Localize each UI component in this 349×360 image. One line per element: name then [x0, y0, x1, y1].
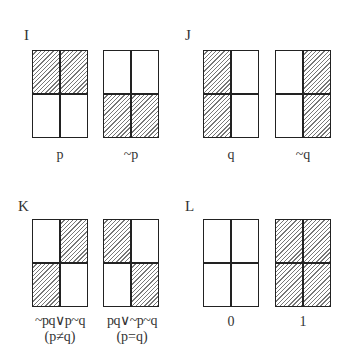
group-label-l: L	[185, 199, 194, 214]
cell-bottom-right	[60, 263, 87, 306]
diagram-not-p	[103, 50, 159, 138]
cell-top-right	[131, 220, 158, 263]
caption-not-p: ~p	[103, 147, 159, 162]
caption-q: q	[203, 147, 259, 162]
caption-xor: ~pq∨p~q	[20, 313, 100, 328]
caption-not-q: ~q	[275, 147, 331, 162]
diagram-p	[32, 50, 88, 138]
cell-top-right	[231, 220, 258, 263]
cell-top-right	[60, 220, 87, 263]
cell-top-left	[276, 51, 303, 94]
diagram-q	[203, 50, 259, 138]
cell-bottom-left	[276, 263, 303, 306]
cell-bottom-left	[204, 94, 231, 137]
cell-top-left	[204, 51, 231, 94]
cell-bottom-right	[131, 94, 158, 137]
diagram-one	[275, 219, 331, 307]
cell-top-left	[204, 220, 231, 263]
caption-equivalence: pq∨~p~q	[92, 313, 172, 328]
cell-bottom-right	[131, 263, 158, 306]
caption-equivalence-note: (p=q)	[92, 329, 172, 344]
cell-top-right	[131, 51, 158, 94]
cell-top-right	[303, 220, 330, 263]
cell-top-left	[104, 220, 131, 263]
cell-bottom-left	[104, 94, 131, 137]
group-label-i: I	[24, 28, 29, 43]
diagram-not-q	[275, 50, 331, 138]
cell-bottom-right	[303, 94, 330, 137]
cell-bottom-right	[60, 94, 87, 137]
diagram-zero	[203, 219, 259, 307]
cell-bottom-left	[104, 263, 131, 306]
group-label-k: K	[18, 199, 29, 214]
cell-bottom-left	[204, 263, 231, 306]
cell-bottom-left	[33, 263, 60, 306]
cell-top-left	[276, 220, 303, 263]
cell-top-right	[303, 51, 330, 94]
diagram-equivalence	[103, 219, 159, 307]
cell-bottom-left	[33, 94, 60, 137]
cell-bottom-left	[276, 94, 303, 137]
cell-top-right	[231, 51, 258, 94]
caption-one: 1	[275, 314, 331, 329]
cell-top-left	[104, 51, 131, 94]
cell-bottom-right	[231, 263, 258, 306]
cell-top-left	[33, 220, 60, 263]
cell-top-left	[33, 51, 60, 94]
caption-xor-note: (p≠q)	[20, 329, 100, 344]
caption-zero: 0	[203, 314, 259, 329]
diagram-xor	[32, 219, 88, 307]
group-label-j: J	[185, 28, 191, 43]
caption-p: p	[32, 147, 88, 162]
cell-bottom-right	[303, 263, 330, 306]
cell-top-right	[60, 51, 87, 94]
cell-bottom-right	[231, 94, 258, 137]
